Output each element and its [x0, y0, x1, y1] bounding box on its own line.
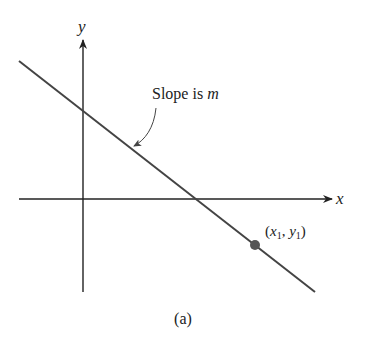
slope-annotation: Slope is m: [152, 85, 219, 103]
x-axis-label: x: [335, 189, 344, 208]
y-axis-label: y: [76, 17, 86, 36]
y-var: y: [287, 223, 296, 239]
slope-variable: m: [207, 85, 219, 102]
slope-annotation-prefix: Slope is: [152, 85, 207, 103]
line-slope-diagram: y x Slope is m (x1, y1) (a): [0, 0, 365, 338]
figure-caption: (a): [174, 310, 192, 328]
point-marker: [250, 240, 260, 250]
point-label: (x1, y1): [265, 223, 306, 241]
annotation-arrow: [134, 108, 156, 146]
separator: ,: [282, 223, 290, 239]
paren-close: ): [301, 223, 306, 240]
